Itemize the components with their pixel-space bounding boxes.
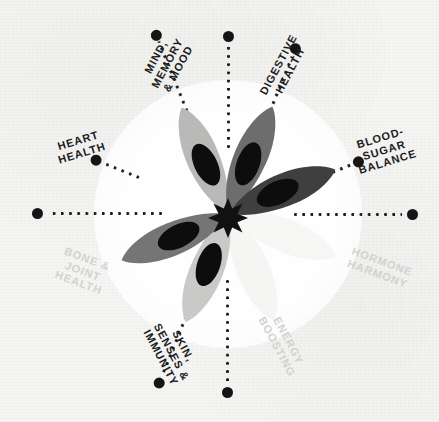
flower-svg [108,94,348,334]
benefits-wheel-graphic: MIND, MEMORY & MOODDIGESTIVE HEALTHBLOOD… [0,0,439,422]
left-axis-end-dot [33,209,44,220]
top-axis-end-dot [223,32,234,43]
wheel-label-blood-sugar-balance: BLOOD- SUGAR BALANCE [337,119,430,180]
right-axis-end-dot [407,209,418,220]
flower-center-star [208,198,248,238]
bottom-axis-end-dot [223,387,234,398]
wheel-label-mind-memory-mood: MIND, MEMORY & MOOD [132,19,202,106]
